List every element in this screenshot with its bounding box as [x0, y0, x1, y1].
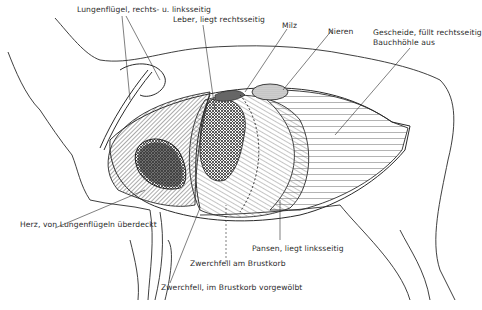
label-liver: Leber, liegt rechtsseitig — [173, 15, 265, 24]
label-rumen: Pansen, liegt linksseitig — [252, 244, 344, 253]
label-diaphragm-ribcage: Zwerchfell am Brustkorb — [190, 259, 286, 268]
label-intestines-line1: Gescheide, füllt rechtsseitig — [373, 28, 482, 37]
label-lungs: Lungenflügel, rechts- u. linksseitig — [77, 5, 211, 14]
label-diaphragm-arched: Zwerchfell, im Brustkorb vorgewölbt — [161, 283, 302, 292]
label-heart: Herz, von Lungenflügeln überdeckt — [20, 220, 157, 229]
kidneys — [252, 84, 288, 100]
label-kidneys: Nieren — [328, 27, 354, 36]
label-spleen: Milz — [282, 21, 297, 30]
label-intestines-line2: Bauchhöhle aus — [373, 38, 435, 47]
